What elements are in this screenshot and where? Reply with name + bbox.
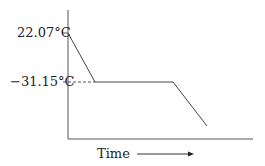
arrow-head-icon (188, 152, 194, 157)
temperature-curve (68, 33, 207, 126)
y-tick-label-top: 22.07°C (17, 25, 71, 40)
x-axis-label: Time (97, 146, 130, 161)
y-tick-label-mid: −31.15°C (10, 74, 75, 89)
